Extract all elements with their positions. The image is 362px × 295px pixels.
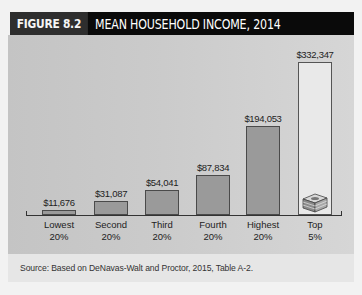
category-label: Highest20% xyxy=(238,219,288,243)
category-label-line2: 5% xyxy=(290,231,340,243)
value-label: $194,053 xyxy=(233,113,293,124)
category-label-line1: Lowest xyxy=(34,219,84,231)
bar-second-20- xyxy=(94,201,128,215)
title-bar: FIGURE 8.2 MEAN HOUSEHOLD INCOME, 2014 xyxy=(10,12,354,35)
bar-third-20- xyxy=(145,190,179,215)
value-label: $87,834 xyxy=(183,162,243,173)
category-label-line2: 20% xyxy=(188,231,238,243)
category-label-line1: Fourth xyxy=(188,219,238,231)
category-label-line2: 20% xyxy=(137,231,187,243)
money-stack-icon xyxy=(301,191,329,213)
chart-panel: $11,676Lowest20%$31,087Second20%$54,041T… xyxy=(8,35,354,254)
value-label: $11,676 xyxy=(29,197,89,208)
bar-fourth-20- xyxy=(196,175,230,215)
category-label-line2: 20% xyxy=(86,231,136,243)
figure: FIGURE 8.2 MEAN HOUSEHOLD INCOME, 2014 $… xyxy=(8,12,354,282)
category-label-line1: Third xyxy=(137,219,187,231)
value-label: $31,087 xyxy=(81,188,141,199)
bar-highest-20- xyxy=(246,126,280,215)
category-label: Top5% xyxy=(290,219,340,243)
x-axis-baseline xyxy=(26,215,342,216)
x-axis-right-tick xyxy=(341,211,342,216)
value-label: $332,347 xyxy=(285,49,345,60)
figure-title: MEAN HOUSEHOLD INCOME, 2014 xyxy=(95,16,281,32)
category-label-line1: Top xyxy=(290,219,340,231)
figure-number: FIGURE 8.2 xyxy=(10,12,88,35)
category-label-line1: Highest xyxy=(238,219,288,231)
category-label: Second20% xyxy=(86,219,136,243)
source-band: Source: Based on DeNavas-Walt and Procto… xyxy=(8,254,354,282)
category-label-line2: 20% xyxy=(238,231,288,243)
value-label: $54,041 xyxy=(132,177,192,188)
category-label: Lowest20% xyxy=(34,219,84,243)
category-label: Third20% xyxy=(137,219,187,243)
x-axis-left-tick xyxy=(26,211,27,216)
category-label-line1: Second xyxy=(86,219,136,231)
bar-lowest-20- xyxy=(42,210,76,215)
category-label-line2: 20% xyxy=(34,231,84,243)
source-note: Source: Based on DeNavas-Walt and Procto… xyxy=(20,263,253,273)
category-label: Fourth20% xyxy=(188,219,238,243)
